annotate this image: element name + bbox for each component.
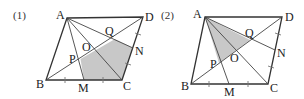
label-p-2: P xyxy=(210,57,217,71)
figure-1: (1) A D B C M N O P Q xyxy=(13,8,154,95)
label-n-2: N xyxy=(277,46,286,60)
segment-an-1 xyxy=(67,18,133,48)
label-o-2: O xyxy=(230,51,239,65)
label-n-1: N xyxy=(135,44,144,58)
figure-number-1: (1) xyxy=(13,9,26,22)
label-o-1: O xyxy=(82,40,91,54)
label-d-1: D xyxy=(145,10,154,24)
label-b-2: B xyxy=(181,79,189,93)
label-a-1: A xyxy=(56,8,65,22)
figure-2: (2) A D B C M N O P Q xyxy=(161,7,294,99)
label-m-2: M xyxy=(224,85,235,99)
label-m-1: M xyxy=(78,81,89,95)
label-d-2: D xyxy=(285,10,294,24)
label-q-1: Q xyxy=(105,24,114,38)
label-q-2: Q xyxy=(245,26,254,40)
geometry-figures: (1) A D B C M N O P Q (2) A D B C M N O … xyxy=(0,0,304,99)
figure-number-2: (2) xyxy=(161,9,174,22)
label-a-2: A xyxy=(193,7,202,21)
label-b-1: B xyxy=(36,77,44,91)
label-c-1: C xyxy=(123,79,131,93)
label-p-1: P xyxy=(69,52,76,66)
label-c-2: C xyxy=(270,81,278,95)
